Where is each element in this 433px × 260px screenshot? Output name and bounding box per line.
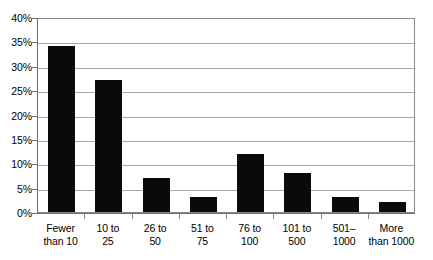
x-axis-tick-label: More than 1000 (368, 222, 415, 248)
x-axis-tick (321, 214, 322, 219)
y-axis-tick-label: 40% (11, 13, 32, 24)
y-axis-tick (32, 67, 37, 68)
bar-series (38, 19, 414, 212)
y-axis-tick-labels: 0%5%10%15%20%25%30%35%40% (0, 0, 36, 260)
y-axis-tick-label: 25% (11, 86, 32, 97)
y-axis-tick-label: 15% (11, 135, 32, 146)
y-axis-tick-label: 30% (11, 62, 32, 73)
bar (48, 46, 75, 212)
bar (332, 197, 359, 212)
y-axis-line (37, 18, 38, 214)
y-axis-tick (32, 116, 37, 117)
x-axis-tick-labels: Fewer than 1010 to 2526 to 5051 to 7576 … (37, 222, 415, 260)
x-axis-tick-label: Fewer than 10 (37, 222, 84, 248)
x-axis-tick-label: 76 to 100 (226, 222, 273, 248)
y-axis-tick-label: 10% (11, 159, 32, 170)
x-axis-tick-label: 51 to 75 (179, 222, 226, 248)
x-axis-tick-label: 10 to 25 (84, 222, 131, 248)
x-axis-tick (84, 214, 85, 219)
x-axis-tick (132, 214, 133, 219)
x-axis-tick (226, 214, 227, 219)
y-axis-tick (32, 140, 37, 141)
y-axis-tick (32, 18, 37, 19)
y-axis-tick (32, 189, 37, 190)
y-axis-tick (32, 213, 37, 214)
y-axis-tick-label: 0% (17, 208, 32, 219)
bar (95, 80, 122, 212)
x-axis-tick (368, 214, 369, 219)
y-axis-tick (32, 42, 37, 43)
x-axis-tick-label: 101 to 500 (273, 222, 320, 248)
x-axis-tick-label: 26 to 50 (132, 222, 179, 248)
bar (237, 154, 264, 213)
x-axis-tick-label: 501– 1000 (321, 222, 368, 248)
x-axis-tick (273, 214, 274, 219)
bar (190, 197, 217, 212)
y-axis-tick-label: 35% (11, 37, 32, 48)
plot-area (37, 18, 415, 213)
y-axis-tick-label: 20% (11, 110, 32, 121)
y-axis-tick (32, 91, 37, 92)
y-axis-tick-label: 5% (17, 183, 32, 194)
x-axis-tick (179, 214, 180, 219)
y-axis-tick (32, 164, 37, 165)
bar-chart: 0%5%10%15%20%25%30%35%40% Fewer than 101… (0, 0, 433, 260)
bar (284, 173, 311, 212)
bar (379, 202, 406, 212)
bar (143, 178, 170, 212)
